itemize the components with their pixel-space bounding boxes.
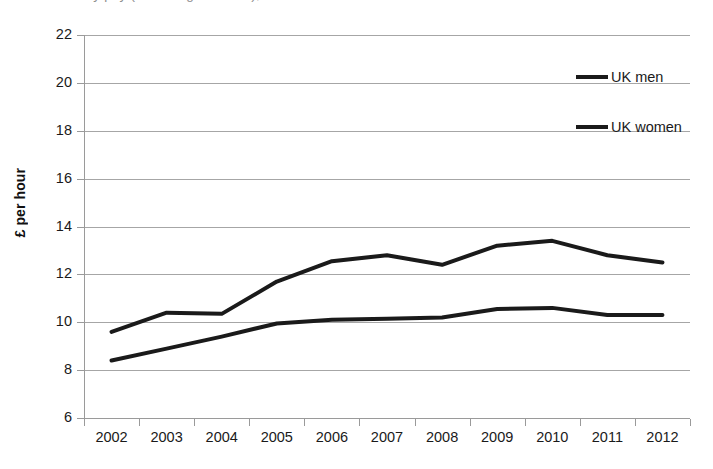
x-tick-mark <box>84 419 85 426</box>
y-tick-label: 20 <box>40 74 72 90</box>
x-tick-label: 2010 <box>524 429 580 445</box>
gridline <box>84 35 690 36</box>
y-tick-mark <box>77 370 84 371</box>
y-tick-label: 10 <box>40 313 72 329</box>
gridline <box>84 274 690 275</box>
y-tick-mark <box>77 179 84 180</box>
y-tick-mark <box>77 227 84 228</box>
x-tick-label: 2007 <box>359 429 415 445</box>
gridline <box>84 227 690 228</box>
y-tick-mark <box>77 418 84 419</box>
x-tick-mark <box>139 419 140 426</box>
y-tick-label: 12 <box>40 265 72 281</box>
y-tick-mark <box>77 83 84 84</box>
y-axis-line <box>84 35 85 419</box>
x-tick-label: 2011 <box>579 429 635 445</box>
y-tick-mark <box>77 35 84 36</box>
x-tick-label: 2009 <box>469 429 525 445</box>
x-tick-label: 2006 <box>304 429 360 445</box>
y-tick-mark <box>77 322 84 323</box>
y-axis-title: £ per hour <box>12 168 32 237</box>
legend-label-uk-women: UK women <box>611 119 682 135</box>
y-tick-label: 18 <box>40 122 72 138</box>
x-tick-label: 2004 <box>194 429 250 445</box>
x-tick-label: 2002 <box>84 429 140 445</box>
x-tick-label: 2005 <box>249 429 305 445</box>
x-tick-mark <box>304 419 305 426</box>
y-tick-mark <box>77 274 84 275</box>
y-tick-label: 14 <box>40 218 72 234</box>
x-tick-label: 2008 <box>414 429 470 445</box>
legend-swatch-uk-women <box>576 125 608 129</box>
gridline <box>84 179 690 180</box>
x-tick-mark <box>415 419 416 426</box>
y-tick-label: 16 <box>40 170 72 186</box>
x-tick-label: 2003 <box>139 429 195 445</box>
x-tick-mark <box>359 419 360 426</box>
legend-label-uk-men: UK men <box>611 69 663 85</box>
x-tick-mark <box>194 419 195 426</box>
legend-entry: UK men <box>576 66 663 88</box>
x-tick-mark <box>470 419 471 426</box>
line-chart: 6810121416182022 £ per hour 200220032004… <box>0 0 713 469</box>
legend-entry: UK women <box>576 116 682 138</box>
plot-area <box>84 35 690 418</box>
y-tick-label: 22 <box>40 26 72 42</box>
gridline <box>84 322 690 323</box>
y-tick-label: 6 <box>40 409 72 425</box>
legend-swatch-uk-men <box>576 75 608 79</box>
x-tick-mark <box>635 419 636 426</box>
x-tick-mark <box>690 419 691 426</box>
x-tick-mark <box>580 419 581 426</box>
gridline <box>84 370 690 371</box>
x-tick-mark <box>525 419 526 426</box>
y-tick-mark <box>77 131 84 132</box>
y-tick-label: 8 <box>40 361 72 377</box>
x-tick-label: 2012 <box>634 429 690 445</box>
gridline <box>84 418 690 419</box>
chart-screenshot: Hourly pay (excluding overtime), UK men … <box>0 0 713 469</box>
x-tick-mark <box>249 419 250 426</box>
